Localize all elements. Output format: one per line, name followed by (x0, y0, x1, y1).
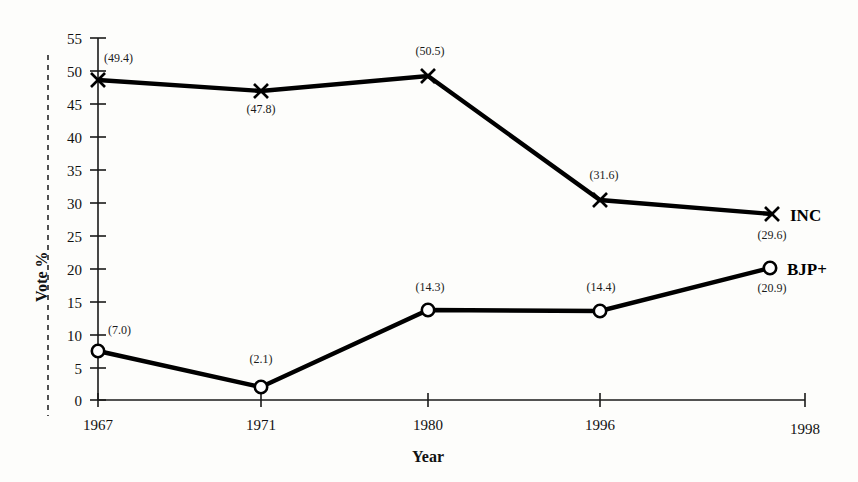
value-label-bjp-1980: (14.3) (416, 280, 445, 294)
x-tick-label-1980: 1980 (413, 417, 443, 433)
value-label-bjp-1996: (14.4) (587, 280, 616, 294)
x-tick-label-1996: 1996 (585, 417, 616, 433)
y-tick-label-15: 15 (67, 295, 82, 311)
y-axis-title: Vote % (33, 251, 50, 302)
series-markers-inc (91, 69, 779, 221)
value-label-inc-1971: (47.8) (247, 102, 276, 116)
series-label-bjp: BJP+ (787, 260, 827, 279)
y-tick-label-35: 35 (67, 163, 82, 179)
y-tick-label-40: 40 (67, 130, 82, 146)
value-labels-inc: (49.4) (47.8) (50.5) (31.6) (29.6) (104, 44, 787, 242)
y-tick-label-50: 50 (67, 64, 82, 80)
value-label-bjp-1971: (2.1) (250, 352, 273, 366)
x-tick-label-1971: 1971 (246, 417, 276, 433)
x-axis-title: Year (412, 448, 444, 465)
marker-bjp-1980 (422, 304, 434, 316)
x-tick-label-1967: 1967 (83, 417, 114, 433)
value-label-inc-1980: (50.5) (416, 44, 445, 58)
y-axis-tick-labels: 55 50 45 40 35 30 25 20 15 10 5 0 (67, 31, 82, 409)
value-labels-bjp: (7.0) (2.1) (14.3) (14.4) (20.9) (108, 280, 787, 366)
y-tick-label-55: 55 (67, 31, 82, 47)
marker-bjp-1998 (764, 262, 776, 274)
y-tick-label-5: 5 (75, 361, 83, 377)
value-label-inc-1967: (49.4) (104, 51, 133, 65)
marker-bjp-1967 (92, 345, 104, 357)
value-label-bjp-1998: (20.9) (758, 281, 787, 295)
vote-share-line-chart: Vote % 55 50 45 40 35 30 25 20 (0, 0, 858, 482)
series-label-inc: INC (790, 206, 821, 225)
y-tick-label-45: 45 (67, 97, 82, 113)
y-tick-label-25: 25 (67, 229, 82, 245)
marker-bjp-1996 (594, 305, 606, 317)
series-line-inc (98, 76, 772, 214)
y-tick-label-30: 30 (67, 196, 82, 212)
value-label-inc-1996: (31.6) (590, 168, 619, 182)
y-tick-label-20: 20 (67, 262, 82, 278)
value-label-inc-1998: (29.6) (758, 228, 787, 242)
y-tick-label-0: 0 (75, 393, 83, 409)
x-tick-label-1998: 1998 (790, 421, 820, 437)
value-label-bjp-1967: (7.0) (108, 323, 131, 337)
marker-bjp-1971 (255, 381, 267, 393)
chart-canvas: Vote % 55 50 45 40 35 30 25 20 (0, 0, 858, 482)
x-axis-tick-labels: 1967 1971 1980 1996 1998 (83, 417, 820, 437)
y-tick-label-10: 10 (67, 328, 82, 344)
